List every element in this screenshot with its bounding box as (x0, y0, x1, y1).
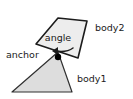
body1-label: body1 (77, 73, 107, 84)
diagram-canvas: angle anchor body1 body2 (0, 0, 133, 99)
angle-label: angle (45, 32, 72, 43)
body2-label: body2 (95, 22, 125, 33)
anchor-label: anchor (6, 49, 39, 60)
anchor-point-dot-icon (55, 54, 61, 60)
joint-diagram: angle anchor body1 body2 (0, 0, 133, 99)
